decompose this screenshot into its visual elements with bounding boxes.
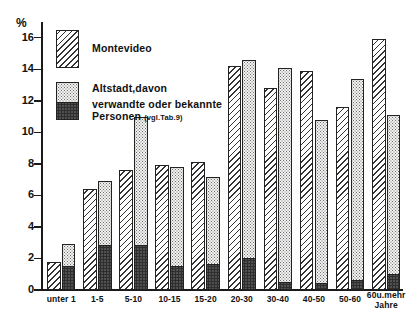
bar-segment-divider-8 [352, 280, 364, 281]
bar-segment-divider-6 [279, 282, 291, 283]
bar-verwandte-5 [243, 259, 255, 289]
bar-altstadt-3 [170, 167, 184, 290]
bar-altstadt-2 [134, 117, 148, 290]
y-tick-label-2: 2 [14, 251, 34, 263]
y-tick-label-6: 6 [14, 188, 34, 200]
y-tick-4 [34, 226, 42, 227]
bar-segment-divider-3 [171, 266, 183, 267]
bar-segment-divider-9 [388, 274, 400, 275]
bar-montevideo-0 [47, 262, 61, 290]
bar-segment-divider-5 [243, 258, 255, 259]
y-tick-16 [34, 37, 42, 38]
bar-verwandte-8 [352, 281, 364, 289]
legend-swatch-altstadt-upper [57, 83, 78, 102]
bar-verwandte-1 [99, 246, 111, 289]
bar-chart: % 0246810121416 unter 11-55-1010-1515-20… [0, 0, 409, 327]
bar-montevideo-2 [119, 170, 133, 290]
y-tick-14 [34, 69, 42, 70]
y-tick-label-8: 8 [14, 157, 34, 169]
bar-altstadt-7 [315, 120, 329, 290]
bar-montevideo-9 [372, 39, 386, 290]
legend-label-altstadt: Altstadt,davon [92, 82, 222, 95]
bar-segment-divider-4 [207, 264, 219, 265]
legend-label-montevideo: Montevideo [92, 42, 152, 54]
bar-verwandte-0 [63, 267, 75, 289]
bar-altstadt-5 [242, 60, 256, 290]
y-tick-label-12: 12 [14, 94, 34, 106]
bar-altstadt-1 [98, 181, 112, 290]
bar-montevideo-7 [300, 71, 314, 290]
bar-verwandte-4 [207, 265, 219, 289]
bar-verwandte-2 [135, 246, 147, 289]
bar-montevideo-1 [83, 189, 97, 290]
legend-label-personen: Personen [92, 110, 141, 122]
y-tick-label-16: 16 [14, 31, 34, 43]
bar-montevideo-6 [264, 88, 278, 290]
legend-note-tab-reference: (vgl.Tab.9) [144, 113, 183, 122]
legend-item-altstadt: Altstadt,davon verwandte oder bekannte P… [56, 82, 222, 125]
legend-label-personen-row: Personen (vgl.Tab.9) [92, 110, 222, 125]
bar-montevideo-8 [336, 107, 350, 290]
legend-label-verwandte: verwandte oder bekannte [92, 98, 222, 111]
y-tick-10 [34, 132, 42, 133]
bar-montevideo-5 [228, 66, 242, 290]
bar-montevideo-4 [191, 162, 205, 290]
bar-altstadt-4 [206, 177, 220, 291]
y-tick-6 [34, 195, 42, 196]
bar-montevideo-3 [155, 165, 169, 290]
y-tick-8 [34, 163, 42, 164]
bar-altstadt-6 [278, 68, 292, 290]
y-tick-label-14: 14 [14, 62, 34, 74]
y-axis-unit-label: % [16, 16, 26, 30]
y-tick-label-4: 4 [14, 220, 34, 232]
bar-altstadt-8 [351, 79, 365, 290]
x-axis-label-9: 60u.mehrJahre [354, 291, 409, 310]
bar-verwandte-3 [171, 267, 183, 289]
bar-altstadt-9 [387, 115, 401, 290]
legend-item-montevideo: Montevideo [56, 30, 152, 68]
bar-altstadt-0 [62, 244, 76, 290]
bar-verwandte-7 [316, 284, 328, 289]
y-tick-2 [34, 258, 42, 259]
bar-segment-divider-7 [316, 283, 328, 284]
bar-segment-divider-1 [99, 245, 111, 246]
legend-swatch-montevideo [56, 30, 79, 68]
bar-segment-divider-2 [135, 245, 147, 246]
bar-verwandte-9 [388, 275, 400, 289]
x-label-line2-9: Jahre [354, 301, 409, 311]
legend-swatch-verwandte-lower [57, 102, 78, 119]
bar-segment-divider-0 [63, 266, 75, 267]
y-tick-0 [34, 289, 42, 290]
bar-verwandte-6 [279, 283, 291, 289]
legend-swatch-altstadt [56, 82, 79, 120]
y-tick-label-10: 10 [14, 125, 34, 137]
y-tick-12 [34, 100, 42, 101]
